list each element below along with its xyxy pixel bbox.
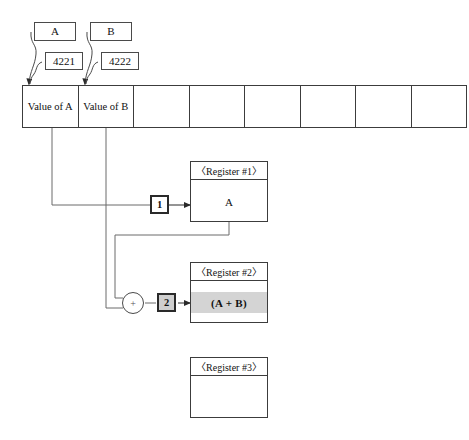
register-1: 〈Register #1〉 A: [190, 161, 268, 222]
memory-cell: [134, 86, 190, 127]
register-1-header-label: 〈Register #1〉: [196, 163, 262, 178]
register-1-body: A: [191, 180, 267, 223]
register-3: 〈Register #3〉: [190, 357, 268, 418]
register-3-header-label: 〈Register #3〉: [196, 359, 262, 374]
callout-addr-b-label: 4222: [109, 56, 131, 67]
step-marker-2: 2: [157, 293, 176, 312]
step-marker-2-label: 2: [164, 297, 169, 308]
memory-cell: Value of B: [79, 86, 135, 127]
register-3-body: [191, 376, 267, 419]
register-2-value: (A + B): [211, 297, 247, 309]
memory-cell: [356, 86, 412, 127]
plus-icon: +: [130, 298, 136, 309]
memory-cell: [301, 86, 357, 127]
register-2-highlight-band: (A + B): [191, 292, 267, 313]
memory-cell: Value of A: [23, 86, 79, 127]
callout-var-a: A: [34, 22, 76, 41]
leader-line-addr-a: [30, 62, 42, 84]
memory-cell-label: Value of B: [83, 101, 128, 112]
leader-line-addr-b: [86, 62, 98, 84]
callout-addr-b: 4222: [101, 52, 139, 70]
memory-cell-label: Value of A: [28, 101, 73, 112]
adder-operator-icon: +: [122, 292, 144, 314]
register-2-header-label: 〈Register #2〉: [196, 264, 262, 279]
step-marker-1: 1: [150, 195, 169, 214]
step-marker-1-label: 1: [157, 199, 162, 210]
register-2: 〈Register #2〉 (A + B): [190, 262, 268, 323]
wire-cell-a-to-step1: [52, 126, 150, 205]
callout-var-a-label: A: [51, 26, 59, 37]
register-1-header: 〈Register #1〉: [191, 162, 267, 180]
callout-addr-a: 4221: [45, 52, 83, 70]
callout-addr-a-label: 4221: [53, 56, 75, 67]
callout-var-b-label: B: [107, 26, 114, 37]
callout-var-b: B: [90, 22, 132, 41]
register-2-body: (A + B): [191, 281, 267, 324]
memory-row: Value of A Value of B: [22, 85, 467, 128]
register-3-header: 〈Register #3〉: [191, 358, 267, 376]
register-1-value: A: [225, 196, 233, 208]
diagram-canvas: A 4221 B 4222 Value of A Value of B 1 2 …: [0, 0, 469, 440]
memory-cell: [245, 86, 301, 127]
register-2-header: 〈Register #2〉: [191, 263, 267, 281]
memory-cell: [412, 86, 468, 127]
memory-cell: [190, 86, 246, 127]
